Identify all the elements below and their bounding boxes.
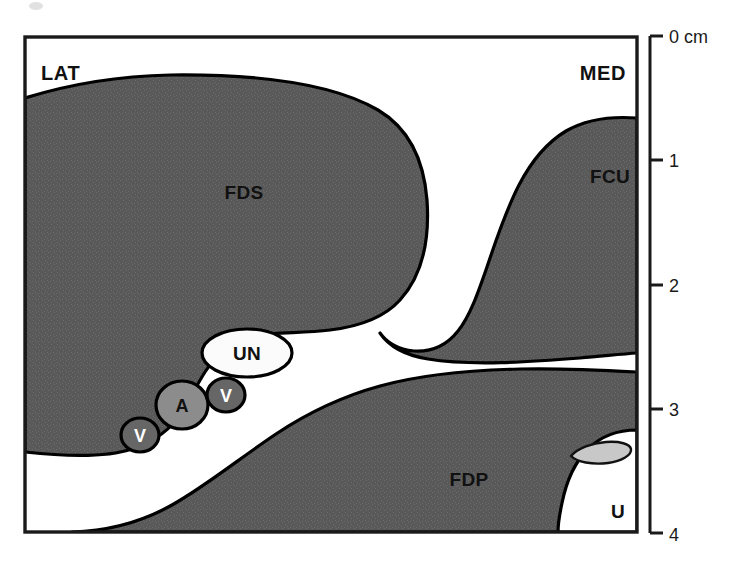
ruler-label-4: 4 (669, 525, 679, 545)
label-ulna: U (611, 501, 625, 522)
ruler-label-3: 3 (669, 400, 679, 420)
cross-section-content: LAT MED FDS FCU FDP UN A V V U (25, 37, 637, 532)
label-artery: A (176, 396, 189, 416)
label-vein-inferior: V (134, 426, 146, 446)
label-fdp: FDP (449, 469, 488, 490)
label-fcu: FCU (590, 166, 630, 187)
label-vein-superior: V (220, 386, 232, 406)
label-fds: FDS (224, 182, 263, 203)
ruler-label-0: 0 cm (669, 27, 708, 47)
forearm-cross-section-figure: LAT MED FDS FCU FDP UN A V V U 0 cm 1 (0, 0, 735, 564)
label-medial: MED (580, 62, 626, 84)
label-un: UN (233, 343, 261, 364)
ruler-label-1: 1 (669, 151, 679, 171)
label-lateral: LAT (41, 62, 80, 84)
scan-artifact (29, 2, 43, 10)
figure-page: LAT MED FDS FCU FDP UN A V V U 0 cm 1 (0, 0, 735, 564)
ruler-label-2: 2 (669, 276, 679, 296)
